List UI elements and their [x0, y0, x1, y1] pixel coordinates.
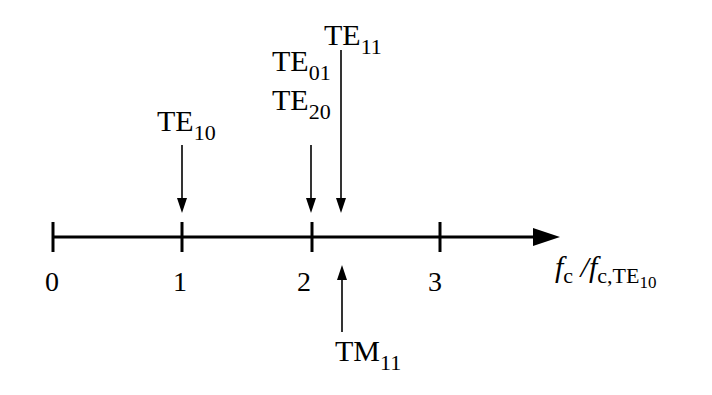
tick-label-1: 1: [173, 268, 187, 296]
tick-label-3: 3: [428, 268, 442, 296]
axis-arrowhead-icon: [533, 228, 560, 246]
axis-label: fc /fc,TE10: [555, 252, 656, 291]
label-te20-sub: 20: [309, 99, 331, 124]
axis-label-den-sub-text: c,TE: [597, 263, 639, 288]
label-te01-base: TE: [272, 44, 309, 77]
label-tm11-base: TM: [335, 334, 380, 367]
label-tm11: TM11: [335, 336, 401, 374]
axis-label-num-sub: c: [563, 263, 573, 288]
label-te20: TE20: [272, 85, 331, 123]
label-te10-base: TE: [157, 104, 194, 137]
te11-arrow-icon: [336, 50, 346, 213]
tm11-arrow-icon: [337, 265, 347, 332]
axis-label-den-sub: c,TE10: [597, 263, 656, 288]
label-te10-sub: 10: [194, 120, 216, 145]
tick-label-2: 2: [297, 268, 311, 296]
label-te11-sub: 11: [361, 34, 382, 59]
te01-te20-arrow-icon: [306, 145, 316, 213]
frequency-axis: [53, 222, 560, 252]
label-te11: TE11: [324, 20, 382, 58]
label-te11-base: TE: [324, 18, 361, 51]
label-te20-base: TE: [272, 83, 309, 116]
axis-label-den-subsub: 10: [639, 273, 656, 292]
label-te01-sub: 01: [309, 60, 331, 85]
label-te10: TE10: [157, 106, 216, 144]
tick-label-0: 0: [45, 268, 59, 296]
label-te01: TE01: [272, 46, 331, 84]
axis-label-sep: /: [573, 250, 589, 283]
label-tm11-sub: 11: [380, 350, 401, 375]
te10-arrow-icon: [177, 145, 187, 213]
